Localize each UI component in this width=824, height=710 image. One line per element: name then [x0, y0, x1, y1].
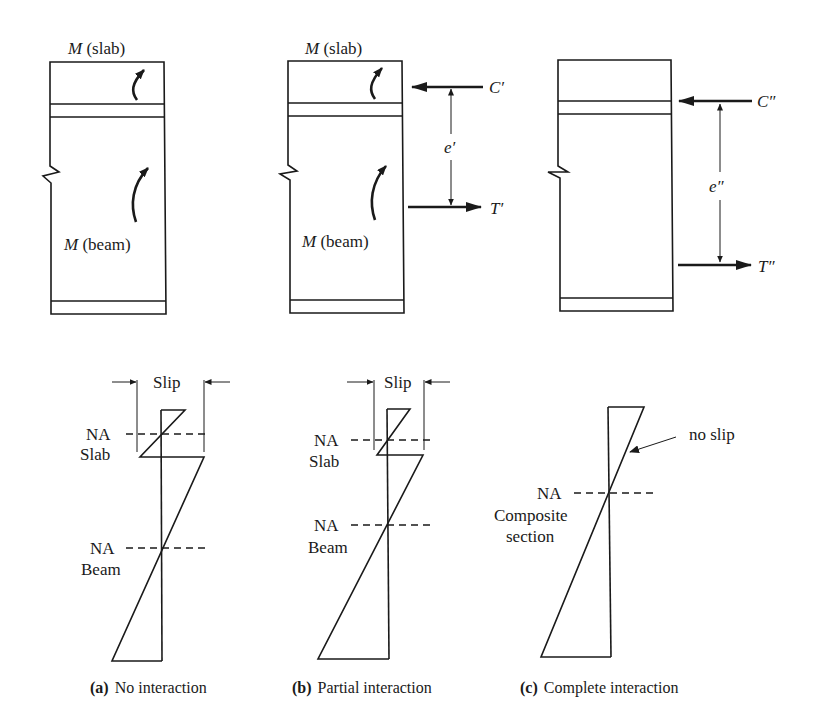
- panel-a-beam-strain-profile: [112, 457, 204, 661]
- panel-c-no-slip-label: no slip: [689, 425, 735, 444]
- panel-b-beam-strain-profile: [318, 455, 423, 659]
- panel-b-lever-arm-label: e′: [444, 138, 456, 157]
- panel-b-section: M (slab) M (beam) C′ T′ e′: [280, 39, 504, 313]
- panel-b-tension-label: T′: [490, 199, 503, 218]
- panel-b-caption: (b)Partial interaction: [292, 679, 432, 697]
- panel-c-no-slip-pointer-icon: [630, 437, 676, 452]
- panel-c-strain-diagram: no slip NA Composite section (c)Complete…: [494, 407, 735, 697]
- panel-b-section-outline: [280, 61, 404, 313]
- panel-a-strain-diagram: Slip NA Slab NA Beam (a)No interaction: [80, 373, 230, 697]
- panel-b-na-slab-label: NA: [314, 431, 339, 450]
- panel-b-compression-label: C′: [489, 78, 504, 97]
- panel-c-lever-arm-label: e″: [709, 177, 725, 196]
- panel-c-strain-datum-line: [608, 407, 611, 657]
- panel-b-beam-moment-label: M (beam): [301, 232, 369, 251]
- panel-a-caption: (a)No interaction: [90, 679, 207, 697]
- panel-b-strain-datum-line: [387, 409, 389, 659]
- panel-b-strain-diagram: Slip NA Slab NA Beam (b)Partial interact…: [292, 373, 450, 697]
- panel-a-beam-moment-arrow-icon: [133, 168, 148, 222]
- panel-c-tension-label: T″: [758, 257, 775, 276]
- panel-a-section-outline: [43, 62, 166, 314]
- panel-b-na-beam-sublabel: Beam: [308, 538, 348, 557]
- composite-beam-interaction-diagram: M (slab) M (beam) M (slab) M (beam) C′ T…: [0, 0, 824, 710]
- panel-a-slab-moment-arrow-icon: [133, 70, 144, 100]
- panel-a-section: M (slab) M (beam): [43, 39, 166, 314]
- panel-b-beam-moment-arrow-icon: [372, 166, 386, 220]
- panel-c-section: C″ T″ e″: [548, 60, 776, 311]
- panel-c-strain-profile: [541, 407, 644, 657]
- panel-a-na-slab-sublabel: Slab: [80, 445, 110, 464]
- panel-b-slab-strain-profile: [377, 409, 410, 455]
- panel-b-slab-moment-arrow-icon: [371, 68, 382, 99]
- panel-b-na-beam-label: NA: [314, 516, 339, 535]
- panel-a-slip-label: Slip: [153, 373, 180, 392]
- panel-a-strain-datum-line: [161, 410, 162, 661]
- panel-c-caption: (c)Complete interaction: [520, 679, 678, 697]
- panel-c-na-sublabel-2: section: [506, 527, 555, 546]
- panel-a-slab-moment-label: M (slab): [67, 39, 125, 58]
- panel-c-na-label: NA: [537, 484, 562, 503]
- panel-a-na-slab-label: NA: [86, 425, 111, 444]
- panel-a-na-beam-sublabel: Beam: [81, 560, 121, 579]
- panel-b-slip-label: Slip: [384, 373, 411, 392]
- panel-c-na-sublabel-1: Composite: [494, 506, 568, 525]
- panel-c-section-outline: [548, 60, 673, 311]
- panel-a-beam-moment-label: M (beam): [63, 235, 131, 254]
- panel-b-slab-moment-label: M (slab): [304, 39, 362, 58]
- panel-c-compression-label: C″: [757, 92, 776, 111]
- panel-a-na-beam-label: NA: [90, 539, 115, 558]
- panel-b-na-slab-sublabel: Slab: [309, 452, 339, 471]
